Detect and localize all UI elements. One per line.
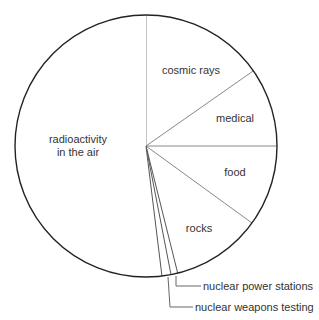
leader-line <box>168 277 193 307</box>
slice-label: cosmic rays <box>162 64 221 76</box>
slice-label: radioactivity <box>49 133 108 145</box>
slice-label: medical <box>216 112 254 124</box>
leader-label: nuclear power stations <box>203 280 314 292</box>
leader-label: nuclear weapons testing <box>195 301 314 313</box>
pie-chart: cosmic raysmedicalfoodrocksradioactivity… <box>0 0 319 320</box>
pie-slices <box>15 15 277 277</box>
slice-label: food <box>224 166 245 178</box>
leader-line <box>176 276 201 286</box>
slice-label: rocks <box>186 222 213 234</box>
slice-label: in the air <box>57 146 100 158</box>
